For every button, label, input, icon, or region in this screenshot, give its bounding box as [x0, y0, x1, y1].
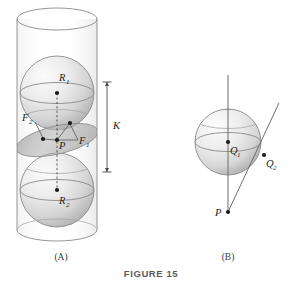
k-arrow-up	[105, 82, 109, 86]
panel-a-label: (A)	[54, 252, 67, 263]
label-q1-subscript: 1	[237, 151, 241, 159]
point-q2	[262, 153, 266, 157]
label-p-a: P	[58, 140, 66, 151]
point-f2	[41, 137, 45, 141]
label-r2-subscript: 2	[66, 201, 70, 209]
point-r2	[55, 188, 59, 192]
panel-b-label: (B)	[222, 252, 235, 263]
label-f2-subscript: 2	[29, 118, 33, 126]
distance-bracket-k	[103, 82, 112, 172]
label-f1: F	[78, 135, 86, 146]
label-p-b: P	[214, 207, 222, 218]
figure-15: R 1 R 2 F 2 F 1 P K (A)	[0, 0, 302, 283]
point-f1	[68, 121, 72, 125]
point-q1	[226, 140, 230, 144]
label-r1-subscript: 1	[66, 78, 70, 86]
label-k: K	[112, 120, 121, 131]
figure-canvas: R 1 R 2 F 2 F 1 P K (A)	[0, 0, 302, 283]
label-f1-subscript: 1	[86, 141, 90, 149]
panel-b: Q 1 Q 2 P (B)	[195, 75, 279, 263]
label-q2-subscript: 2	[273, 164, 277, 172]
label-r1: R	[58, 72, 66, 83]
label-f2: F	[21, 112, 29, 123]
panel-a: R 1 R 2 F 2 F 1 P K (A)	[13, 8, 121, 263]
figure-caption: FIGURE 15	[124, 268, 179, 279]
point-p-b	[226, 210, 230, 214]
k-arrow-down	[105, 168, 109, 172]
label-r2: R	[58, 195, 66, 206]
point-r1	[55, 91, 59, 95]
